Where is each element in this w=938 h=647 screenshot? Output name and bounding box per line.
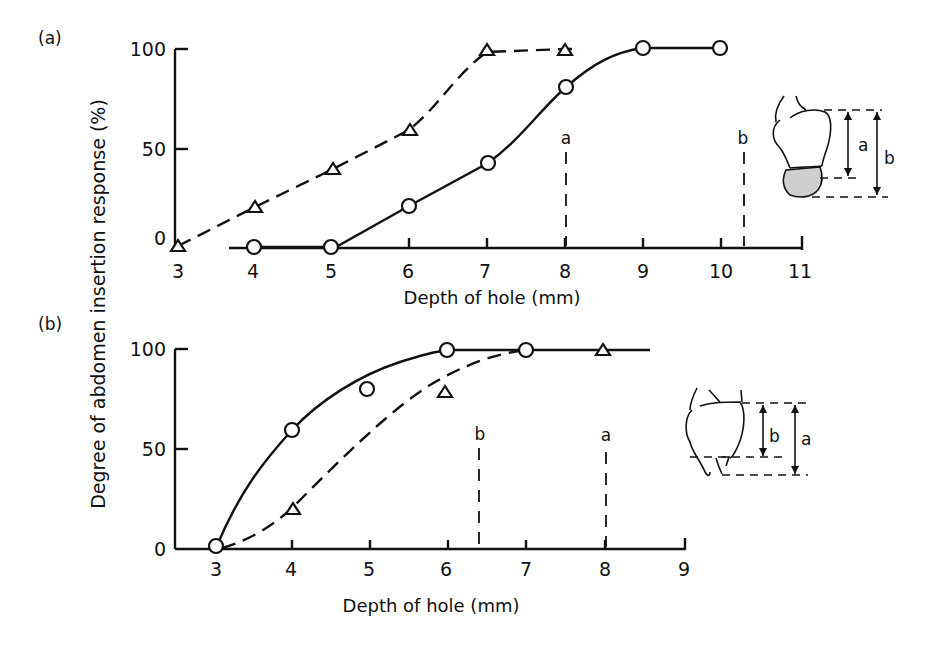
panel-b-ytick-label-50: 50 bbox=[142, 438, 166, 460]
figure: Degree of abdomen insertion response (%)… bbox=[0, 0, 938, 647]
panel-a-xtick-label-11: 11 bbox=[788, 260, 812, 282]
panel-a-x-axis-title: Depth of hole (mm) bbox=[404, 287, 581, 308]
panel-a-xtick-label-4: 4 bbox=[247, 260, 259, 282]
panel-a-xtick-label-7: 7 bbox=[479, 260, 491, 282]
y-axis-title: Degree of abdomen insertion response (%) bbox=[87, 99, 109, 509]
panel-a-xtick-label-9: 9 bbox=[637, 260, 649, 282]
panel-a-inset-b-label: b bbox=[884, 148, 895, 168]
panel-b-ref-b-label: b bbox=[475, 424, 486, 444]
panel-a-abdomen-inset: a b bbox=[773, 96, 895, 197]
panel-a-xtick-label-8: 8 bbox=[559, 260, 571, 282]
panel-b-xtick-label-8: 8 bbox=[599, 558, 611, 580]
panel-a-triangle-curve bbox=[178, 49, 580, 246]
panel-b-ytick-label-100: 100 bbox=[130, 338, 166, 360]
panel-b-triangle-markers bbox=[286, 344, 610, 514]
panel-b-xtick-label-4: 4 bbox=[285, 558, 297, 580]
panel-a-xtick-label-10: 10 bbox=[709, 260, 733, 282]
panel-a-circle-curve bbox=[255, 48, 721, 247]
panel-b-xtick-label-9: 9 bbox=[678, 558, 690, 580]
panel-a-ytick-label-0: 0 bbox=[154, 227, 166, 249]
panel-b-xtick-label-3: 3 bbox=[210, 558, 222, 580]
panel-b-xtick-label-5: 5 bbox=[363, 558, 375, 580]
panel-a-xtick-label-6: 6 bbox=[402, 260, 414, 282]
panel-b-triangle-curve bbox=[222, 350, 526, 548]
panel-a: (a) 100 50 0 3 4 5 6 7 8 9 10 11 Depth o… bbox=[38, 28, 895, 308]
panel-b-xtick-label-6: 6 bbox=[440, 558, 452, 580]
panel-b-inset-b-label: b bbox=[769, 426, 780, 446]
panel-a-ytick-label-50: 50 bbox=[142, 138, 166, 160]
panel-a-triangle-markers bbox=[171, 44, 572, 251]
panel-a-xtick-label-5: 5 bbox=[325, 260, 337, 282]
panel-a-circle-markers bbox=[247, 41, 727, 254]
panel-b: (b) 100 50 0 3 4 5 6 7 8 9 Depth of hole… bbox=[38, 314, 811, 616]
panel-b-xtick-label-7: 7 bbox=[520, 558, 532, 580]
panel-b-ytick-label-0: 0 bbox=[154, 538, 166, 560]
panel-a-ref-a-label: a bbox=[561, 128, 571, 148]
panel-a-ytick-label-100: 100 bbox=[130, 38, 166, 60]
panel-a-ref-b-label: b bbox=[738, 128, 749, 148]
panel-b-abdomen-inset: b a bbox=[686, 388, 811, 475]
panel-a-inset-a-label: a bbox=[858, 135, 868, 155]
panel-b-inset-a-label: a bbox=[801, 429, 811, 449]
panel-b-x-axis-title: Depth of hole (mm) bbox=[343, 595, 520, 616]
panel-b-label: (b) bbox=[38, 314, 62, 334]
panel-a-label: (a) bbox=[38, 28, 62, 48]
panel-b-ref-a-label: a bbox=[601, 425, 611, 445]
panel-a-xtick-label-3: 3 bbox=[172, 260, 184, 282]
